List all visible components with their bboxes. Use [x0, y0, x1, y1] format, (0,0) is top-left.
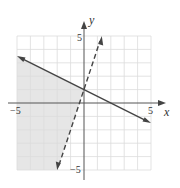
x-min-tick-label: −5 — [10, 106, 21, 116]
y-axis-label: y — [89, 14, 94, 26]
inequality-graph — [0, 0, 180, 188]
y-min-tick-label: −5 — [70, 165, 81, 175]
x-max-tick-label: 5 — [148, 106, 153, 116]
dashed-line-top-arrow-icon — [98, 36, 103, 45]
solid-line-right-arrow-icon — [143, 117, 152, 123]
x-axis-label: x — [164, 106, 169, 118]
y-max-tick-label: 5 — [77, 33, 82, 43]
y-axis-arrow-icon — [81, 21, 87, 29]
